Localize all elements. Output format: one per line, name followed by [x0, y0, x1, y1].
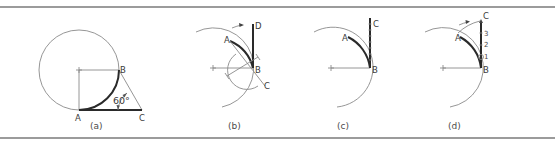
- angle-label: 60°: [113, 95, 130, 106]
- caption-a: (a): [90, 121, 103, 131]
- label-b-c: B: [372, 65, 378, 75]
- caption-d: (d): [448, 121, 461, 131]
- panel-d: C 3 2 1 A B (d): [425, 11, 489, 131]
- label-a-a: A: [75, 113, 81, 123]
- division-2: 2: [484, 41, 488, 49]
- label-c-c: C: [373, 19, 379, 29]
- arrow-head-icon: [466, 20, 471, 24]
- label-b-d: B: [483, 65, 489, 75]
- panel-a: 60° B A C (a): [39, 30, 145, 131]
- label-b-a: B: [120, 65, 126, 75]
- label-a-d: A: [455, 33, 461, 43]
- panel-c: C A B (c): [314, 18, 379, 131]
- arrow-head-icon: [239, 23, 244, 27]
- label-c-b: C: [264, 81, 270, 91]
- label-b-b: B: [255, 65, 261, 75]
- swing-arc-d: [458, 21, 480, 33]
- label-a-b: A: [224, 35, 230, 45]
- label-a-c: A: [342, 33, 348, 43]
- division-1: 1: [484, 53, 488, 61]
- panel-b: D A B C (b): [196, 21, 270, 131]
- label-c-d: C: [483, 11, 489, 21]
- caption-b: (b): [228, 121, 241, 131]
- arc-rectification-figure: 60° B A C (a) D A B C (b): [0, 0, 555, 144]
- caption-c: (c): [337, 121, 349, 131]
- label-d-b: D: [255, 21, 262, 31]
- arc-ab-d: [460, 37, 481, 68]
- arc-ab-c: [348, 37, 370, 68]
- division-3: 3: [484, 30, 488, 38]
- label-c-a: C: [139, 113, 145, 123]
